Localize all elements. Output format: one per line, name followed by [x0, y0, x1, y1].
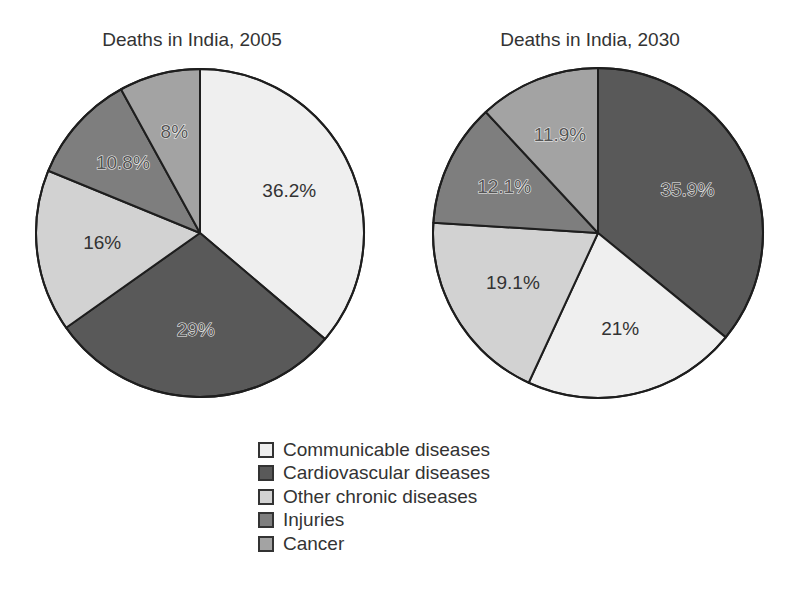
slice-label-injuries: 10.8%: [96, 152, 150, 173]
slice-label-other-chronic-diseases: 16%: [83, 232, 121, 253]
legend-label: Communicable diseases: [283, 439, 490, 461]
legend-label: Injuries: [283, 509, 344, 531]
slice-label-communicable-diseases: 36.2%: [262, 180, 316, 201]
slice-label-cardiovascular-diseases: 35.9%: [660, 179, 714, 200]
legend-swatch: [258, 512, 274, 528]
slice-label-communicable-diseases: 21%: [601, 318, 639, 339]
slice-label-other-chronic-diseases: 19.1%: [486, 272, 540, 293]
slice-label-cancer: 11.9%: [534, 124, 587, 145]
slice-label-cardiovascular-diseases: 29%: [177, 319, 215, 340]
slice-label-cancer: 8%: [161, 121, 189, 142]
legend-label: Other chronic diseases: [283, 486, 477, 508]
legend-swatch: [258, 536, 274, 552]
legend-swatch: [258, 465, 274, 481]
legend: Communicable diseases Cardiovascular dis…: [258, 438, 490, 556]
legend-item-other-chronic: Other chronic diseases: [258, 485, 490, 509]
legend-item-communicable: Communicable diseases: [258, 438, 490, 462]
legend-item-cancer: Cancer: [258, 532, 490, 556]
legend-item-injuries: Injuries: [258, 509, 490, 533]
legend-label: Cancer: [283, 533, 344, 555]
slice-label-injuries: 12.1%: [477, 176, 531, 197]
legend-item-cardiovascular: Cardiovascular diseases: [258, 462, 490, 486]
legend-swatch: [258, 489, 274, 505]
pie-chart-2005: 36.2%29%16%10.8%8%: [36, 69, 364, 397]
pie-chart-2030: 35.9%21%19.1%12.1%11.9%: [433, 68, 763, 398]
legend-swatch: [258, 442, 274, 458]
legend-label: Cardiovascular diseases: [283, 462, 490, 484]
